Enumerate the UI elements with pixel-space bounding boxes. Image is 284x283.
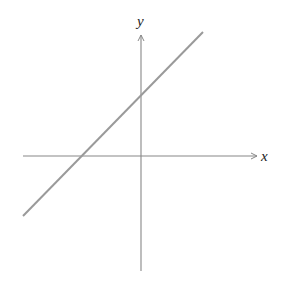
y-axis-label: y bbox=[135, 13, 144, 29]
coordinate-plane: x y bbox=[0, 0, 284, 283]
plotted-line bbox=[23, 32, 203, 216]
x-axis-label: x bbox=[260, 148, 268, 164]
